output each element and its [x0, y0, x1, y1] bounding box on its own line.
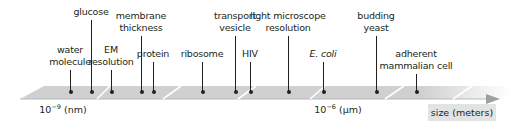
- tick-base: 10: [314, 104, 326, 115]
- item-label-line: E. coli: [310, 48, 337, 60]
- marker-dot-icon: [287, 90, 291, 94]
- marker-dot-icon: [69, 90, 73, 94]
- marker-dot-icon: [140, 90, 144, 94]
- marker-dot-icon: [110, 90, 114, 94]
- leader-line: [250, 62, 251, 92]
- tick-um: 10−6 (µm): [314, 103, 361, 115]
- item-label-line: mammalian cell: [379, 60, 452, 72]
- item-label-line: water: [49, 44, 91, 56]
- axis-label: size (meters): [428, 104, 496, 121]
- item-label-line: membrane: [116, 10, 166, 22]
- marker-dot-icon: [415, 90, 419, 94]
- marker-dot-icon: [375, 90, 379, 94]
- tick-unit: (nm): [64, 104, 87, 115]
- item-label: HIV: [242, 48, 258, 60]
- tick-exponent: −6: [326, 103, 336, 111]
- leader-line: [153, 62, 154, 92]
- item-label: E. coli: [310, 48, 337, 60]
- size-scale-diagram: watermoleculeglucoseEMresolutionmembrane…: [0, 0, 527, 124]
- leader-line: [323, 62, 324, 92]
- leader-line: [111, 70, 112, 92]
- item-label-line: HIV: [242, 48, 258, 60]
- tick-nm: 10−9 (nm): [39, 103, 86, 115]
- tick-unit: (µm): [339, 104, 362, 115]
- item-label: glucose: [73, 6, 108, 18]
- marker-dot-icon: [234, 90, 238, 94]
- item-label-line: EM: [88, 44, 133, 56]
- item-label: adherentmammalian cell: [379, 48, 452, 72]
- tick-base: 10: [39, 104, 51, 115]
- leader-line: [70, 70, 71, 92]
- item-label-line: ribosome: [181, 48, 224, 60]
- item-label-line: resolution: [88, 56, 133, 68]
- item-label-line: budding: [357, 10, 394, 22]
- item-label-line: molecule: [49, 56, 91, 68]
- marker-dot-icon: [201, 90, 205, 94]
- item-label: light microscoperesolution: [250, 10, 325, 34]
- item-label-line: thickness: [116, 22, 166, 34]
- leader-line: [202, 62, 203, 92]
- marker-dot-icon: [152, 90, 156, 94]
- leader-line: [376, 36, 377, 92]
- item-label-line: yeast: [357, 22, 394, 34]
- tick-exponent: −9: [51, 103, 61, 111]
- item-label: protein: [137, 48, 169, 60]
- item-label: EMresolution: [88, 44, 133, 68]
- leader-line: [235, 36, 236, 92]
- item-label: ribosome: [181, 48, 224, 60]
- leader-line: [288, 36, 289, 92]
- marker-dot-icon: [322, 90, 326, 94]
- leader-line: [141, 36, 142, 92]
- item-label: watermolecule: [49, 44, 91, 68]
- item-label: buddingyeast: [357, 10, 394, 34]
- marker-dot-icon: [90, 90, 94, 94]
- item-label-line: resolution: [250, 22, 325, 34]
- item-label-line: glucose: [73, 6, 108, 18]
- item-label-line: adherent: [379, 48, 452, 60]
- item-label-line: light microscope: [250, 10, 325, 22]
- marker-dot-icon: [249, 90, 253, 94]
- item-label: membranethickness: [116, 10, 166, 34]
- item-label-line: protein: [137, 48, 169, 60]
